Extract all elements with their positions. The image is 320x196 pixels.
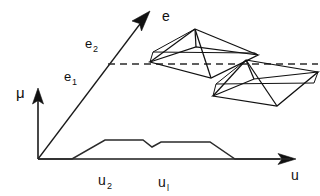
label-u1-base: u (158, 174, 166, 190)
label-e1-base: e (64, 69, 71, 84)
mu-axis-label: μ (16, 84, 25, 101)
e-axis-label: e (162, 8, 170, 24)
u-axis-label: u (291, 167, 299, 183)
label-e2-subscript: 2 (93, 44, 98, 54)
label-u1-subscript: l (167, 183, 169, 193)
label-u2-subscript: 2 (107, 181, 112, 191)
label-u2-base: u (98, 172, 106, 188)
figure-root: μ u e e 1 e 2 u 2 u l (0, 0, 320, 196)
diagram-canvas: μ u e e 1 e 2 u 2 u l (0, 0, 320, 196)
label-e1-subscript: 1 (72, 77, 77, 87)
label-e2-base: e (85, 36, 92, 51)
